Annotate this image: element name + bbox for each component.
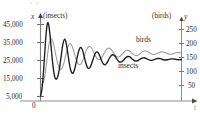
plot-area [0, 0, 200, 117]
left-y-axis [37, 13, 44, 101]
series-curve-birds [41, 39, 182, 85]
x-axis [20, 99, 198, 104]
chart-figure: ▪ ▪ 45,000 35,000 25,000 15,000 5,000 25… [0, 0, 200, 117]
series-curve-insects [41, 23, 182, 96]
right-y-axis [179, 17, 184, 102]
